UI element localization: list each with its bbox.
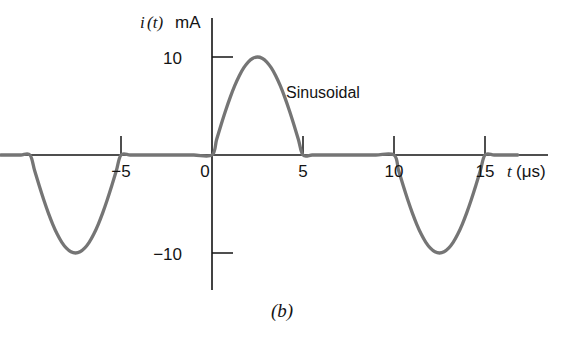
figure-caption: (b) xyxy=(0,300,564,322)
x-tick-label-5: 5 xyxy=(298,162,307,181)
y-tick-label-10: 10 xyxy=(163,49,182,68)
x-tick-label-minus-5: −5 xyxy=(111,162,130,181)
y-tick-label-minus-10: −10 xyxy=(153,245,182,264)
y-axis-symbol: i xyxy=(140,13,145,32)
figure-container: i (t) mA 10 −10 −5 0 5 10 15 t (μs) Sinu… xyxy=(0,0,564,345)
x-tick-label-15: 15 xyxy=(476,162,495,181)
sinusoidal-annotation: Sinusoidal xyxy=(286,84,360,101)
y-axis-unit: mA xyxy=(175,13,201,32)
x-tick-label-0: 0 xyxy=(200,162,209,181)
y-axis-paren-t: (t) xyxy=(147,13,163,32)
x-axis-symbol: t xyxy=(507,162,513,181)
waveform-plot: i (t) mA 10 −10 −5 0 5 10 15 t (μs) Sinu… xyxy=(0,0,564,345)
x-tick-label-10: 10 xyxy=(385,162,404,181)
x-axis-unit: (μs) xyxy=(516,162,546,181)
